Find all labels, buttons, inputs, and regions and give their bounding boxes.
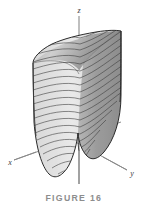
surface-plot: x y z [0,0,148,190]
figure-container: x y z FIGURE 16 [0,0,148,213]
parabolic-surface [30,19,126,177]
y-axis-front-segment [103,157,127,170]
plot-area: x y z [0,0,148,190]
figure-caption-bar: FIGURE 16 [0,190,148,213]
x-axis-left-segment [14,152,36,160]
y-axis-label: y [129,169,134,178]
figure-caption: FIGURE 16 [46,192,103,203]
x-axis-label: x [7,158,12,167]
z-axis-label: z [76,6,81,15]
